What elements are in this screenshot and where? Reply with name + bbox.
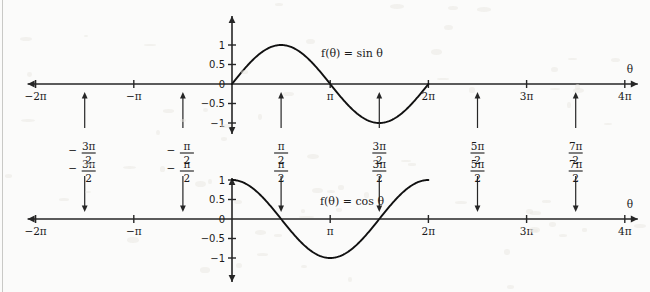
paper-speck bbox=[200, 267, 210, 273]
y-tick-label-cosine-3: −0.5 bbox=[201, 233, 225, 244]
y-tick-label-sine-0: 1 bbox=[219, 40, 225, 51]
paper-speck bbox=[338, 185, 344, 190]
paper-speck bbox=[123, 166, 136, 169]
y-axis-bottom-arrowhead-cosine bbox=[229, 275, 236, 282]
pointer-arrowhead-cosine-1 bbox=[180, 206, 186, 213]
paper-speck bbox=[221, 137, 227, 141]
x-tick-label-sine-5: 3π bbox=[520, 90, 534, 102]
paper-speck bbox=[431, 49, 442, 55]
x-tick-label-cosine-3: π bbox=[327, 225, 334, 237]
chart-sine: θ−2π−ππ2π3π4π10.50−0.5−1f(θ) = sin θ−3π2… bbox=[24, 16, 637, 166]
pointer-annotation-sine-1: −π2 bbox=[166, 92, 193, 166]
fraction-numerator-cosine-4: 5π bbox=[471, 158, 485, 170]
fraction-sign-sine-0: − bbox=[68, 144, 77, 156]
pointer-arrowhead-cosine-4 bbox=[475, 206, 481, 213]
y-tick-label-sine-2: 0 bbox=[219, 79, 225, 90]
paper-speck bbox=[550, 88, 560, 90]
paper-speck bbox=[127, 237, 138, 242]
pointer-arrowhead-sine-3 bbox=[376, 92, 382, 99]
paper-speck bbox=[542, 200, 551, 202]
paper-speck bbox=[255, 230, 266, 235]
page-left-margin-rule bbox=[2, 0, 3, 292]
paper-speck bbox=[163, 109, 174, 113]
pointer-arrowhead-cosine-5 bbox=[573, 206, 579, 213]
paper-speck bbox=[301, 265, 307, 268]
paper-speck bbox=[83, 163, 94, 166]
fraction-sign-cosine-0: − bbox=[68, 162, 77, 174]
fraction-denominator-cosine-3: 2 bbox=[376, 172, 383, 184]
pointer-arrowhead-cosine-3 bbox=[376, 206, 382, 213]
paper-speck bbox=[573, 88, 584, 93]
x-tick-label-cosine-1: −π bbox=[126, 225, 142, 237]
pointer-annotation-sine-0: −3π2 bbox=[68, 92, 95, 166]
paper-speck bbox=[258, 114, 262, 120]
fraction-denominator-cosine-2: 2 bbox=[278, 172, 285, 184]
y-tick-label-cosine-0: 1 bbox=[219, 175, 225, 186]
pointer-arrowhead-sine-4 bbox=[475, 92, 481, 99]
fraction-denominator-cosine-1: 2 bbox=[184, 172, 191, 184]
fraction-numerator-cosine-1: π bbox=[183, 158, 190, 170]
paper-speck bbox=[526, 209, 532, 215]
paper-speck bbox=[20, 37, 32, 41]
y-tick-label-cosine-2: 0 bbox=[219, 214, 225, 225]
fraction-numerator-sine-5: 7π bbox=[569, 140, 583, 152]
paper-speck bbox=[241, 70, 248, 73]
paper-speck bbox=[390, 4, 404, 9]
fraction-denominator-cosine-0: 2 bbox=[85, 172, 92, 184]
paper-speck bbox=[549, 222, 556, 227]
fraction-numerator-cosine-5: 7π bbox=[569, 158, 583, 170]
fraction-denominator-cosine-5: 2 bbox=[572, 172, 579, 184]
paper-speck bbox=[469, 87, 475, 92]
pointer-arrowhead-cosine-0 bbox=[82, 206, 88, 213]
chart-cosine: θ−2π−ππ2π3π4π10.50−0.5−1f(θ) = cos θ−3π2… bbox=[24, 158, 637, 282]
fraction-numerator-sine-4: 5π bbox=[471, 140, 485, 152]
x-axis-right-arrowhead-sine bbox=[631, 81, 638, 88]
paper-speck bbox=[195, 181, 206, 187]
paper-speck bbox=[507, 285, 513, 289]
pointer-annotation-sine-2: π2 bbox=[274, 92, 288, 166]
paper-speck bbox=[529, 229, 538, 232]
x-tick-label-sine-3: π bbox=[327, 90, 334, 102]
paper-speck bbox=[611, 58, 620, 62]
fraction-sign-cosine-1: − bbox=[166, 162, 175, 174]
function-label-sine: f(θ) = sin θ bbox=[321, 47, 383, 60]
y-tick-label-cosine-4: −1 bbox=[210, 253, 225, 264]
pointer-annotation-cosine-1: −π2 bbox=[166, 158, 193, 212]
paper-speck bbox=[5, 174, 12, 178]
x-axis-label-cosine: θ bbox=[627, 198, 633, 210]
x-axis-left-arrowhead-sine bbox=[28, 81, 35, 88]
paper-speck bbox=[504, 249, 510, 254]
x-tick-label-cosine-0: −2π bbox=[24, 225, 46, 237]
y-tick-label-sine-1: 0.5 bbox=[209, 59, 225, 70]
x-tick-label-cosine-4: 2π bbox=[422, 225, 436, 237]
fraction-numerator-sine-0: 3π bbox=[82, 140, 96, 152]
fraction-numerator-sine-2: π bbox=[278, 140, 285, 152]
pointer-arrowhead-cosine-2 bbox=[278, 206, 284, 213]
paper-speck bbox=[156, 130, 160, 135]
paper-speck bbox=[551, 67, 558, 72]
x-axis-left-arrowhead-cosine bbox=[28, 216, 35, 223]
paper-speck bbox=[408, 163, 417, 165]
pointer-annotation-cosine-4: 5π2 bbox=[471, 158, 485, 212]
pointer-annotation-sine-3: 3π2 bbox=[372, 92, 386, 166]
fraction-numerator-sine-3: 3π bbox=[373, 140, 387, 152]
fraction-numerator-sine-1: π bbox=[183, 140, 190, 152]
paper-speck bbox=[301, 209, 305, 212]
fraction-sign-sine-1: − bbox=[166, 144, 175, 156]
paper-speck bbox=[477, 7, 491, 12]
pointer-annotation-sine-4: 5π2 bbox=[471, 92, 485, 166]
y-tick-label-cosine-1: 0.5 bbox=[209, 194, 225, 205]
paper-speck bbox=[275, 3, 283, 6]
x-tick-label-cosine-6: 4π bbox=[618, 225, 632, 237]
fraction-numerator-cosine-3: 3π bbox=[373, 158, 387, 170]
fraction-denominator-cosine-4: 2 bbox=[474, 172, 481, 184]
x-tick-label-sine-4: 2π bbox=[422, 90, 436, 102]
x-tick-label-sine-0: −2π bbox=[24, 90, 46, 102]
paper-speck bbox=[85, 191, 91, 193]
paper-speck bbox=[634, 224, 646, 228]
pointer-annotation-cosine-0: −3π2 bbox=[68, 158, 95, 212]
x-tick-label-sine-1: −π bbox=[126, 90, 142, 102]
pointer-annotation-cosine-2: π2 bbox=[274, 158, 288, 212]
x-axis-right-arrowhead-cosine bbox=[631, 216, 638, 223]
trig-graphs-svg: θ−2π−ππ2π3π4π10.50−0.5−1f(θ) = sin θ−3π2… bbox=[0, 0, 650, 292]
